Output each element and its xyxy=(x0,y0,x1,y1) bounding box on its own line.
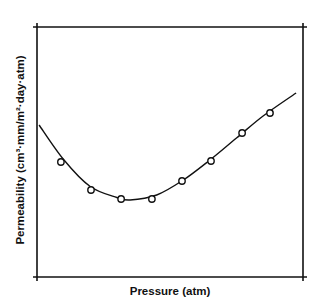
data-point-marker xyxy=(118,196,124,202)
plot-frame xyxy=(33,23,307,281)
data-point-marker xyxy=(58,159,64,165)
data-point-marker xyxy=(149,196,155,202)
data-point-marker xyxy=(267,110,273,116)
data-point-marker xyxy=(179,178,185,184)
permeability-chart xyxy=(0,0,325,307)
x-axis-label: Pressure (atm) xyxy=(130,285,211,297)
data-point-marker xyxy=(88,187,94,193)
data-points xyxy=(58,110,273,202)
data-point-marker xyxy=(239,130,245,136)
y-axis-label: Permeability (cm³·mm/m²·day·atm) xyxy=(14,55,26,244)
data-point-marker xyxy=(208,158,214,164)
fitted-curve xyxy=(39,93,296,200)
